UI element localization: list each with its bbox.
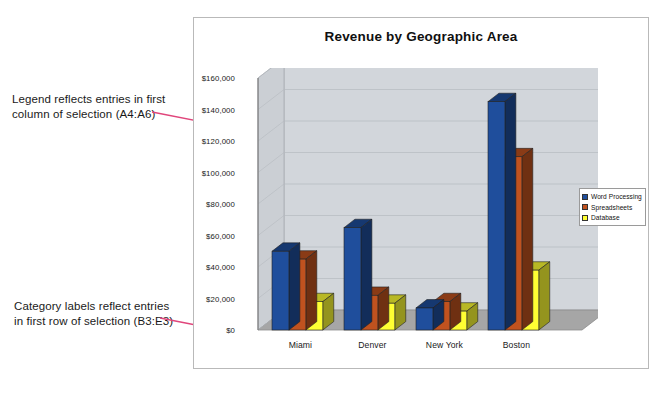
bar-miami-word-processing — [272, 243, 300, 330]
legend-item-label: Word Processing — [591, 193, 642, 200]
y-axis-tick-label: $120,000 — [202, 137, 235, 146]
chart-title: Revenue by Geographic Area — [194, 29, 648, 44]
bar-denver-word-processing — [344, 219, 372, 330]
y-axis-tick-label: $40,000 — [206, 263, 235, 272]
y-axis-tick-label: $80,000 — [206, 200, 235, 209]
legend-item: Spreadsheets — [582, 202, 642, 212]
y-axis-tick-label: $160,000 — [202, 74, 235, 83]
legend-swatch-icon — [582, 194, 588, 200]
y-axis-tick-label: $140,000 — [202, 105, 235, 114]
annotation-category-note: Category labels reflect entries in first… — [14, 299, 184, 329]
chart-container: Revenue by Geographic Area $0$20,000$40,… — [193, 17, 649, 369]
legend-item: Database — [582, 213, 642, 223]
legend-swatch-icon — [582, 204, 588, 210]
legend-item: Word Processing — [582, 192, 642, 202]
plot-3d-canvas — [240, 68, 598, 346]
legend-item-label: Spreadsheets — [591, 204, 632, 211]
legend-swatch-icon — [582, 215, 588, 221]
x-axis-category-label: New York — [426, 340, 463, 350]
y-axis-tick-label: $60,000 — [206, 231, 235, 240]
y-axis-tick-label: $0 — [226, 326, 235, 335]
plot-area: $0$20,000$40,000$60,000$80,000$100,000$1… — [240, 68, 598, 346]
legend-item-label: Database — [591, 214, 620, 221]
annotation-legend-note: Legend reflects entries in first column … — [12, 92, 184, 122]
x-axis-category-label: Miami — [289, 340, 312, 350]
y-axis-tick-label: $20,000 — [206, 294, 235, 303]
x-axis-category-label: Denver — [358, 340, 386, 350]
x-axis-category-label: Boston — [503, 340, 530, 350]
chart-legend: Word ProcessingSpreadsheetsDatabase — [579, 188, 646, 226]
y-axis-tick-label: $100,000 — [202, 168, 235, 177]
bar-boston-word-processing — [488, 93, 516, 330]
